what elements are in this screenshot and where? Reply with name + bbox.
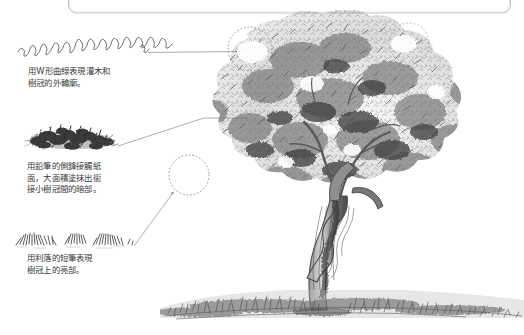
caption-short-strokes: 用利落的短筆表現 樹冠上的亮部。	[27, 253, 139, 276]
tree-canopy	[190, 10, 520, 240]
grassy-ground	[150, 290, 524, 330]
caption-side-of-pencil: 用鉛筆的側鋒接觸紙 面，大面積塗抹出銜 接小樹冠間的暗部。	[27, 161, 139, 196]
illustration-canvas: 用W形曲線表現灌木和 樹冠的外輪廓。 用鉛筆的側鋒接觸紙 面，大面積塗抹出銜 接…	[0, 0, 524, 335]
caption-w-curve: 用W形曲線表現灌木和 樹冠的外輪廓。	[28, 66, 140, 89]
